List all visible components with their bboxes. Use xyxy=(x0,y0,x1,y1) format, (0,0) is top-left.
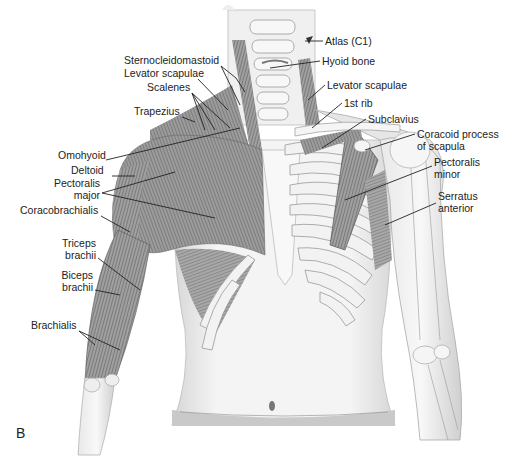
leader-pectoralis-major-1 xyxy=(102,172,175,193)
leader-pectoralis-minor xyxy=(345,166,432,200)
leader-triceps-brachii xyxy=(98,258,140,290)
panel-label: B xyxy=(16,425,25,441)
leader-biceps-brachii xyxy=(95,290,120,295)
label-scalenes: Scalenes xyxy=(147,81,190,93)
leader-hyoid xyxy=(270,61,320,68)
leader-brachialis-2 xyxy=(79,331,120,350)
leader-coracoid xyxy=(365,134,415,150)
label-atlas-c1: Atlas (C1) xyxy=(325,35,372,47)
label-brachialis: Brachialis xyxy=(31,319,77,331)
label-sternocleidomastoid: Sternocleidomastoid xyxy=(124,54,219,66)
leader-levator-scapulae-right xyxy=(308,85,325,100)
leader-first-rib xyxy=(312,103,342,128)
leader-trapezius xyxy=(182,117,195,122)
label-triceps-brachii: Triceps brachii xyxy=(62,237,96,261)
label-trapezius: Trapezius xyxy=(134,105,180,117)
label-deltoid: Deltoid xyxy=(71,164,104,176)
leader-omohyoid xyxy=(106,128,240,160)
leader-levator-scapulae-left xyxy=(198,79,228,110)
label-serratus-anterior: Serratus anterior xyxy=(438,190,478,214)
leader-brachialis-1 xyxy=(79,331,95,345)
label-levator-scapulae-left: Levator scapulae xyxy=(124,67,204,79)
label-coracoid-process: Coracoid process of scapula xyxy=(417,128,499,152)
label-levator-scapulae-right: Levator scapulae xyxy=(327,79,407,91)
label-pectoralis-minor: Pectoralis minor xyxy=(434,156,480,180)
leader-lines xyxy=(0,0,515,457)
leader-coracobrachialis xyxy=(101,216,130,232)
leader-pectoralis-major-2 xyxy=(102,193,215,218)
label-first-rib: 1st rib xyxy=(344,97,373,109)
leader-serratus-anterior xyxy=(385,203,436,225)
label-subclavius: Subclavius xyxy=(368,113,419,125)
label-coracobrachialis: Coracobrachialis xyxy=(20,204,98,216)
label-pectoralis-major: Pectoralis major xyxy=(54,177,100,201)
label-hyoid-bone: Hyoid bone xyxy=(322,55,375,67)
leader-sternocleidomastoid xyxy=(221,66,245,92)
anatomy-figure: Sternocleidomastoid Levator scapulae Sca… xyxy=(0,0,515,457)
leader-sternocleidomastoid-2 xyxy=(221,66,240,105)
label-omohyoid: Omohyoid xyxy=(58,149,106,161)
label-biceps-brachii: Biceps brachii xyxy=(60,269,93,293)
leader-subclavius xyxy=(322,119,366,148)
